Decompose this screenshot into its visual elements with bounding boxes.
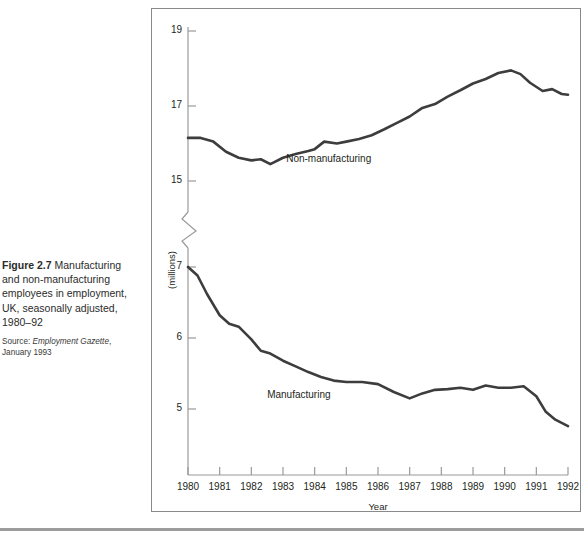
chart-svg bbox=[152, 9, 582, 513]
y-tick-label-6: 6 bbox=[156, 331, 182, 342]
x-axis-title: Year bbox=[348, 501, 408, 512]
figure-number: Figure 2.7 bbox=[2, 259, 52, 271]
page-bottom-rule bbox=[0, 528, 584, 531]
y-tick-label-15: 15 bbox=[156, 174, 182, 185]
series-line-non-manufacturing bbox=[188, 70, 568, 164]
y-tick-label-5: 5 bbox=[156, 402, 182, 413]
axis-break-zigzag bbox=[182, 212, 196, 248]
plot-area: 19 17 15 7 6 5 (millions) 19801981198219… bbox=[152, 9, 582, 513]
figure-caption-text: Figure 2.7 Manufacturing and non-manufac… bbox=[2, 258, 130, 329]
x-tick-label-1992: 1992 bbox=[548, 481, 584, 492]
source-prefix: Source: bbox=[2, 337, 33, 346]
series-line-manufacturing bbox=[188, 267, 568, 426]
y-tick-label-19: 19 bbox=[156, 24, 182, 35]
source-publication: Employment Gazette bbox=[33, 337, 109, 346]
y-tick-label-17: 17 bbox=[156, 99, 182, 110]
series-label-manufacturing: Manufacturing bbox=[267, 389, 330, 400]
x-ticks-group bbox=[188, 467, 568, 475]
y-axis-title: (millions) bbox=[166, 251, 177, 289]
figure-source-text: Source: Employment Gazette, January 1993 bbox=[2, 337, 130, 358]
figure-caption-block: Figure 2.7 Manufacturing and non-manufac… bbox=[2, 258, 130, 358]
series-label-non-manufacturing: Non-manufacturing bbox=[286, 153, 371, 164]
chart-frame: 19 17 15 7 6 5 (millions) 19801981198219… bbox=[151, 8, 581, 512]
